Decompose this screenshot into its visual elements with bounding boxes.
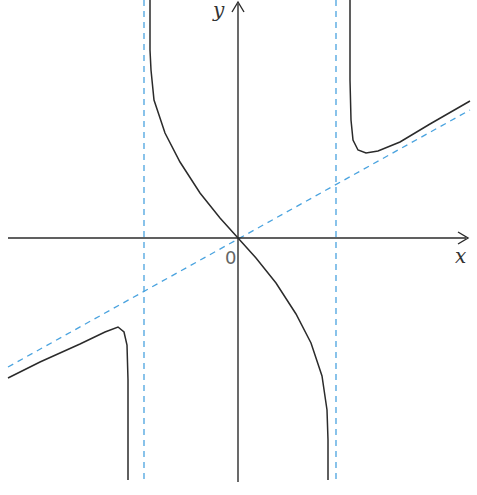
y-axis-label: y [213,0,224,22]
curve-left-branch [8,327,128,480]
curve-middle-branch [150,0,328,480]
x-axis-label: x [455,244,466,268]
graph-canvas [0,0,477,495]
origin-label: 0 [225,247,236,268]
curve-right-branch [350,0,470,153]
